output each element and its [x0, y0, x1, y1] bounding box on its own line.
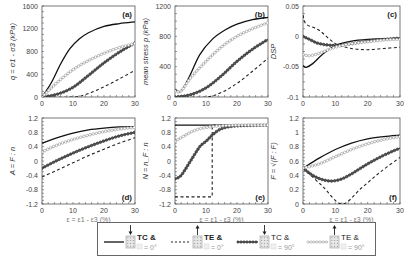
x-tick-label: 30 — [131, 207, 139, 214]
y-axis-label: DSP — [269, 44, 278, 59]
x-tick-label: 0 — [301, 100, 305, 107]
legend-item: TE &= 0° — [171, 225, 224, 251]
panel-tag: (c) — [387, 10, 397, 19]
panel-b: 010203004008001200mean stress p (kPa)(b) — [141, 3, 272, 108]
plot-frame — [175, 118, 268, 204]
legend-graphics: TC &= 0°TE &= 0°TC &= 90°TE &= 90° — [98, 223, 377, 257]
y-axis-label: F = √(F : F) — [269, 142, 278, 180]
panel-tag: (f) — [389, 193, 397, 202]
legend-label: TC & — [271, 233, 290, 242]
figure-canvas: 0102030040080012001600q = σ1 - σ3 (kPa)(… — [0, 0, 411, 222]
x-tick-label: 0 — [40, 207, 44, 214]
panel-tag: (e) — [255, 193, 265, 202]
y-axis-label: A = F : n — [8, 147, 17, 176]
legend-angle: = 0° — [211, 244, 224, 251]
y-axis-label: q = σ1 - σ3 (kPa) — [8, 23, 17, 80]
y-tick-label: 0 — [34, 158, 38, 165]
x-tick-label: 30 — [264, 100, 272, 107]
y-tick-label: 0 — [295, 201, 299, 208]
y-tick-label: 1 — [295, 129, 299, 136]
y-tick-label: 0 — [167, 94, 171, 101]
y-tick-label: -1.2 — [26, 201, 38, 208]
panel-c: 0102030-0.1-0.0500.05DSP(c) — [269, 3, 404, 108]
panel-tag: (d) — [122, 193, 133, 202]
y-tick-label: 0.4 — [28, 143, 38, 150]
x-tick-label: 10 — [69, 207, 77, 214]
y-tick-label: 1200 — [22, 25, 38, 32]
legend-label: TE & — [341, 233, 359, 242]
legend-angle: = 90° — [278, 244, 295, 251]
y-tick-label: -0.4 — [159, 172, 171, 179]
x-tick-label: 10 — [331, 100, 339, 107]
legend-angle: = 90° — [348, 244, 365, 251]
x-tick-label: 0 — [173, 207, 177, 214]
panel-d: 0102030-1.2-0.8-0.400.40.81.2A = F : nε … — [8, 115, 139, 223]
y-axis-label: mean stress p (kPa) — [141, 17, 150, 85]
x-tick-label: 20 — [233, 207, 241, 214]
legend-item: TC &= 90° — [237, 225, 295, 251]
x-tick-label: 10 — [331, 207, 339, 214]
y-tick-label: 0 — [167, 158, 171, 165]
x-tick-label: 30 — [396, 100, 404, 107]
y-tick-label: 1600 — [22, 3, 38, 10]
y-tick-label: -1.2 — [159, 201, 171, 208]
y-tick-label: 0.4 — [289, 172, 299, 179]
panel-f: 010203000.20.40.60.811.2F = √(F : F)ε = … — [269, 115, 404, 223]
x-tick-label: 10 — [202, 207, 210, 214]
x-tick-label: 0 — [173, 100, 177, 107]
y-tick-label: -0.8 — [26, 186, 38, 193]
y-tick-label: 0.8 — [161, 129, 171, 136]
y-tick-label: 0 — [295, 33, 299, 40]
y-tick-label: -0.1 — [287, 94, 299, 101]
y-tick-label: 0.05 — [285, 3, 299, 10]
x-tick-label: 0 — [301, 207, 305, 214]
legend-label: TC & — [137, 233, 156, 242]
x-tick-label: 20 — [233, 100, 241, 107]
y-tick-label: 0.8 — [28, 129, 38, 136]
y-tick-label: 0.4 — [161, 143, 171, 150]
x-tick-label: 10 — [202, 100, 210, 107]
legend-item: TE &= 90° — [307, 225, 365, 251]
x-tick-label: 10 — [69, 100, 77, 107]
y-tick-label: -0.8 — [159, 186, 171, 193]
y-axis-label: N = n_F : n — [141, 142, 150, 179]
y-tick-label: 0.8 — [289, 143, 299, 150]
y-tick-label: -0.05 — [283, 63, 299, 70]
legend: TC &= 0°TE &= 0°TC &= 90°TE &= 90° — [97, 222, 376, 256]
x-tick-label: 20 — [100, 100, 108, 107]
y-tick-label: 400 — [159, 63, 171, 70]
x-tick-label: 30 — [264, 207, 272, 214]
x-tick-label: 20 — [100, 207, 108, 214]
y-tick-label: 0 — [34, 94, 38, 101]
x-tick-label: 20 — [364, 100, 372, 107]
y-tick-label: 800 — [159, 33, 171, 40]
y-tick-label: 1200 — [155, 3, 171, 10]
y-tick-label: 1.2 — [28, 115, 38, 122]
plot-frame — [303, 118, 400, 204]
y-tick-label: 0.6 — [289, 158, 299, 165]
x-tick-label: 30 — [396, 207, 404, 214]
x-tick-label: 30 — [131, 100, 139, 107]
legend-label: TE & — [204, 233, 222, 242]
legend-angle: = 0° — [144, 244, 157, 251]
legend-item: TC &= 0° — [104, 225, 157, 251]
x-tick-label: 0 — [40, 100, 44, 107]
panel-a: 0102030040080012001600q = σ1 - σ3 (kPa)(… — [8, 3, 139, 108]
y-tick-label: 1.2 — [289, 115, 299, 122]
y-tick-label: -0.4 — [26, 172, 38, 179]
y-tick-label: 0.2 — [289, 186, 299, 193]
plot-frame — [303, 6, 400, 97]
x-tick-label: 20 — [364, 207, 372, 214]
y-tick-label: 800 — [26, 48, 38, 55]
y-tick-label: 400 — [26, 71, 38, 78]
y-tick-label: 1.2 — [161, 115, 171, 122]
panel-tag: (a) — [122, 10, 132, 19]
panel-e: 0102030-1.2-0.8-0.400.40.81.2N = n_F : n… — [141, 115, 272, 223]
